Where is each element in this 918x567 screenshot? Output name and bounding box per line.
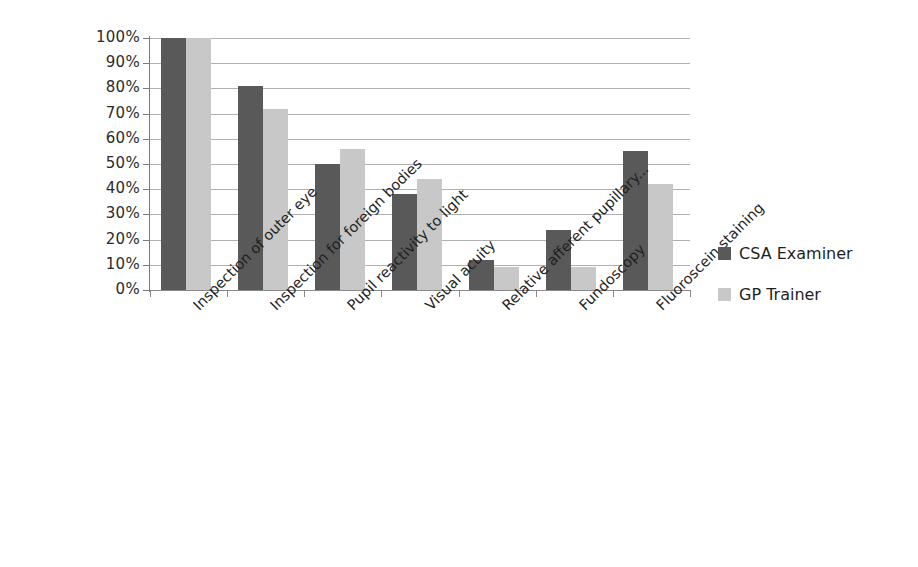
y-axis-tick-label: 0% <box>40 282 140 297</box>
y-axis-tick-mark <box>143 240 150 241</box>
y-axis-tick-labels: 100%90%80%70%60%50%40%30%20%10%0% <box>38 0 140 567</box>
x-axis-tick-mark <box>613 291 614 297</box>
legend-item[interactable]: GP Trainer <box>718 284 908 305</box>
x-axis-tick-mark <box>536 291 537 297</box>
y-axis-tick-mark <box>143 139 150 140</box>
y-axis-tick-label: 90% <box>40 55 140 70</box>
y-axis-tick-mark <box>143 164 150 165</box>
bar <box>161 38 186 290</box>
x-axis-tick-mark <box>381 291 382 297</box>
y-axis-tick-mark <box>143 265 150 266</box>
bar <box>263 109 288 290</box>
gridline <box>150 139 690 140</box>
gridline <box>150 63 690 64</box>
bar-chart: 100%90%80%70%60%50%40%30%20%10%0% Inspec… <box>0 0 918 567</box>
y-axis-tick-label: 60% <box>40 131 140 146</box>
bar <box>648 184 673 290</box>
legend-swatch-icon <box>718 247 731 260</box>
y-axis-tick-mark <box>143 189 150 190</box>
y-axis-tick-label: 70% <box>40 106 140 121</box>
y-axis-tick-label: 100% <box>40 30 140 45</box>
y-axis-tick-label: 20% <box>40 232 140 247</box>
y-axis-tick-mark <box>143 214 150 215</box>
x-axis-tick-mark <box>690 291 691 297</box>
legend-swatch-icon <box>718 288 731 301</box>
x-axis-tick-mark <box>459 291 460 297</box>
legend-item[interactable]: CSA Examiner <box>718 243 908 264</box>
y-axis-tick-mark <box>143 114 150 115</box>
legend-label: CSA Examiner <box>739 245 853 263</box>
y-axis-tick-mark <box>143 290 150 291</box>
x-axis-tick-mark <box>150 291 151 297</box>
y-axis-tick-label: 10% <box>40 257 140 272</box>
gridline <box>150 114 690 115</box>
y-axis-tick-mark <box>143 88 150 89</box>
y-axis-tick-mark <box>143 38 150 39</box>
bar <box>186 38 211 290</box>
chart-legend: CSA ExaminerGP Trainer <box>718 243 908 325</box>
x-axis-tick-mark <box>304 291 305 297</box>
gridline <box>150 88 690 89</box>
x-axis-tick-mark <box>227 291 228 297</box>
y-axis-tick-mark <box>143 63 150 64</box>
y-axis-tick-label: 50% <box>40 156 140 171</box>
legend-label: GP Trainer <box>739 286 821 304</box>
y-axis-tick-label: 80% <box>40 80 140 95</box>
gridline <box>150 38 690 39</box>
y-axis-tick-label: 40% <box>40 181 140 196</box>
y-axis-tick-label: 30% <box>40 206 140 221</box>
